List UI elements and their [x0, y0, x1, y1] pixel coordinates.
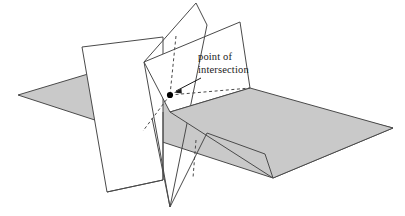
intersecting-planes-diagram: point of intersection: [0, 0, 405, 216]
annotation-line-1: point of: [198, 51, 233, 62]
intersection-point: [167, 92, 173, 98]
annotation-line-2: intersection: [198, 64, 249, 75]
geometry-figure: point of intersection: [0, 0, 405, 216]
horizontal-plane-front-overlay: [170, 88, 393, 178]
